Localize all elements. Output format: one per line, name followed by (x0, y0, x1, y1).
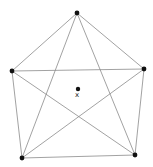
edge-top-bottom-left (22, 13, 77, 158)
edge-bottom-right-left (12, 71, 135, 155)
center-point-label: x (75, 91, 79, 99)
edge-top-bottom-right (77, 13, 135, 155)
vertex-bottom-right (133, 153, 138, 158)
edge-top-right (77, 13, 144, 69)
edge-top-left (12, 13, 77, 71)
graph-edges (12, 13, 144, 158)
vertex-right (142, 67, 147, 72)
edge-right-bottom-right (135, 69, 144, 155)
edge-right-bottom-left (22, 69, 144, 158)
edge-bottom-right-bottom-left (22, 155, 135, 158)
vertex-top (75, 11, 80, 16)
vertex-bottom-left (20, 156, 25, 161)
graph-vertices (10, 11, 147, 161)
edge-right-left (12, 69, 144, 71)
pentagram-diagram: x (0, 0, 153, 167)
edge-bottom-left-left (12, 71, 22, 158)
vertex-left (10, 69, 15, 74)
